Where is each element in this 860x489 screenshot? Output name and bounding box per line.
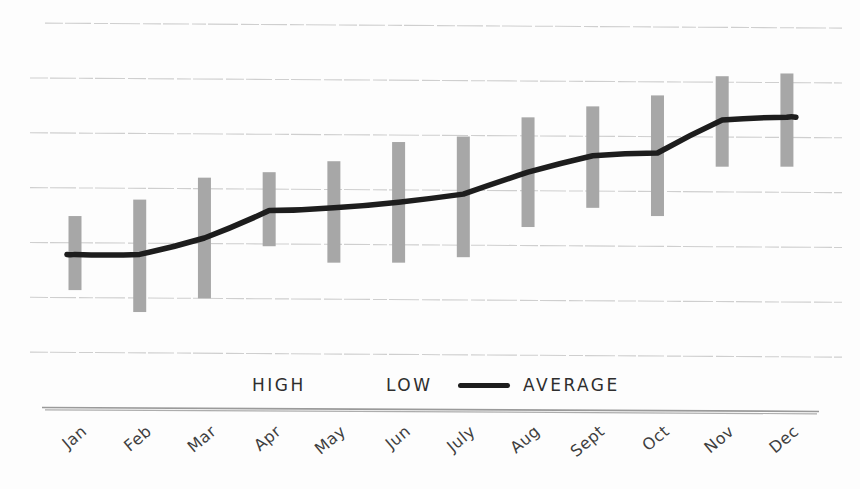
x-tick-label-feb: Feb bbox=[120, 422, 155, 456]
x-tick-label-may: May bbox=[311, 422, 350, 459]
legend-label-high: HIGH bbox=[252, 374, 306, 396]
gridline bbox=[30, 188, 842, 193]
x-tick-label-jun: Jun bbox=[381, 422, 414, 454]
legend-item-average: AVERAGE bbox=[458, 374, 620, 396]
x-tick-label-apr: Apr bbox=[250, 422, 285, 455]
x-tick-label-dec: Dec bbox=[765, 422, 802, 457]
x-tick-label-aug: Aug bbox=[506, 422, 543, 458]
gridline bbox=[45, 23, 842, 28]
range-bar-dec bbox=[780, 73, 793, 166]
gridline bbox=[30, 352, 842, 357]
x-tick-label-oct: Oct bbox=[638, 422, 673, 455]
high-low-average-chart: JanFebMarAprMayJunJulyAugSeptOctNovDec H… bbox=[0, 0, 860, 489]
x-tick-label-sept: Sept bbox=[567, 422, 609, 461]
average-line-swatch bbox=[458, 383, 510, 388]
average-line bbox=[67, 117, 796, 255]
x-tick-label-jan: Jan bbox=[58, 422, 91, 454]
x-tick-label-mar: Mar bbox=[184, 422, 220, 457]
gridline bbox=[30, 242, 842, 247]
x-tick-label-july: July bbox=[442, 422, 479, 457]
legend-label-low: LOW bbox=[386, 374, 433, 396]
chart-canvas: JanFebMarAprMayJunJulyAugSeptOctNovDec bbox=[0, 0, 860, 489]
range-bar-may bbox=[327, 161, 340, 262]
gridline bbox=[30, 297, 842, 302]
legend-label-average: AVERAGE bbox=[523, 374, 620, 396]
chart-legend: HIGH LOW AVERAGE bbox=[0, 370, 860, 402]
x-tick-label-nov: Nov bbox=[700, 422, 737, 458]
